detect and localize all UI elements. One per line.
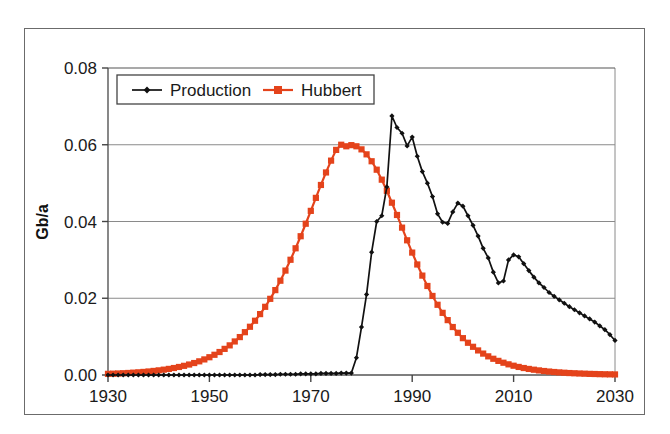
data-point-marker [424,283,430,289]
data-point-marker [450,324,456,330]
data-point-marker [389,200,395,206]
data-point-marker [323,169,329,175]
y-axis-title: Gb/a [34,204,51,240]
data-point-marker [292,245,298,251]
y-tick-label: 0.08 [64,59,97,78]
data-point-marker [298,233,304,239]
y-tick-label: 0.06 [64,136,97,155]
data-point-marker [455,330,461,336]
data-point-marker [308,208,314,214]
data-point-marker [277,278,283,284]
data-point-marker [328,158,334,164]
data-point-marker [369,158,375,164]
y-axis-tick-labels: 0.000.020.040.060.08 [64,59,97,385]
legend-label-hubbert: Hubbert [301,81,362,100]
data-point-marker [379,177,385,183]
x-tick-label: 1970 [292,387,330,406]
data-point-marker [272,287,278,293]
y-tick-label: 0.00 [64,366,97,385]
data-point-marker [404,237,410,243]
data-point-marker [313,195,319,201]
y-tick-label: 0.02 [64,289,97,308]
data-point-marker [252,318,258,324]
data-point-marker [267,296,273,302]
data-point-marker [242,329,248,335]
x-axis-tick-labels: 193019501970199020102030 [89,387,634,406]
data-point-marker [363,151,369,157]
data-point-marker [318,182,324,188]
data-point-marker [434,302,440,308]
data-point-marker [287,257,293,263]
chart-legend[interactable]: ProductionHubbert [117,75,374,104]
data-point-marker [282,267,288,273]
data-point-marker [399,225,405,231]
hubbert-production-line-chart: 0.000.020.040.060.08 1930195019701990201… [0,0,670,434]
x-tick-label: 2010 [495,387,533,406]
x-tick-label: 2030 [596,387,634,406]
x-tick-label: 1930 [89,387,127,406]
data-point-marker [612,371,618,377]
data-point-marker [414,261,420,267]
y-tick-label: 0.04 [64,213,97,232]
x-tick-label: 1950 [190,387,228,406]
data-point-marker [445,317,451,323]
data-point-marker [257,311,263,317]
legend-swatch-marker [274,86,282,94]
data-point-marker [429,293,435,299]
data-point-marker [409,249,415,255]
x-tick-label: 1990 [393,387,431,406]
y-axis-ticks [102,68,108,375]
data-point-marker [247,324,253,330]
data-point-marker [303,221,309,227]
data-point-marker [374,167,380,173]
data-point-marker [262,304,268,310]
data-point-marker [440,310,446,316]
data-point-marker [419,273,425,279]
data-point-marker [394,212,400,218]
chart-figure: 0.000.020.040.060.08 1930195019701990201… [0,0,670,434]
legend-label-production: Production [170,81,251,100]
